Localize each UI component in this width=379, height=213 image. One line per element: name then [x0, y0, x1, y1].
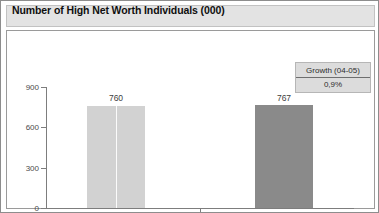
bar-2004[interactable] — [87, 106, 145, 208]
bar-value-2004: 760 — [109, 93, 123, 103]
x-axis-center-tick — [200, 209, 201, 213]
legend-title: Growth (04-05) — [296, 65, 370, 78]
y-axis-label-600: 600 — [13, 123, 39, 132]
bar-2004-seam — [116, 106, 117, 208]
y-axis-label-300: 300 — [13, 164, 39, 173]
y-axis-label-900: 900 — [13, 83, 39, 92]
y-tick-600 — [41, 127, 46, 128]
chart-figure: Number of High Net Worth Individuals (00… — [0, 0, 379, 213]
legend-box: Growth (04-05) 0,9% — [295, 62, 371, 93]
bars-container — [47, 87, 354, 208]
y-tick-900 — [41, 87, 46, 88]
bar-2005[interactable] — [255, 105, 313, 208]
y-tick-300 — [41, 168, 46, 169]
y-tick-0 — [41, 208, 46, 209]
bar-value-2005: 767 — [277, 93, 291, 103]
plot-area-frame: 900 600 300 0 760 767 2004 2005 Germany — [6, 30, 375, 209]
page-title: Number of High Net Worth Individuals (00… — [12, 4, 225, 16]
y-axis-label-0: 0 — [13, 204, 39, 213]
legend-value: 0,9% — [296, 78, 370, 90]
